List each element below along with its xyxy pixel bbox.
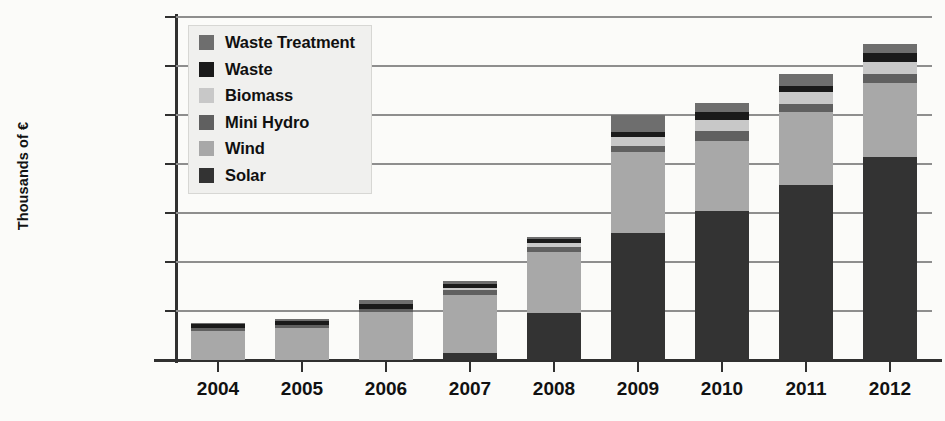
x-tick-label-2008: 2008 [509, 378, 599, 400]
chart-legend: Waste Treatment Waste Biomass Mini Hydro… [188, 25, 372, 194]
bar-2007[interactable] [443, 281, 497, 360]
legend-label-waste-treatment: Waste Treatment [225, 33, 355, 52]
bar-2004[interactable] [191, 323, 245, 360]
bar-segment-waste-treatment[interactable] [695, 103, 749, 112]
gridline [176, 16, 932, 18]
legend-label-biomass: Biomass [225, 86, 293, 105]
bar-segment-mini-hydro[interactable] [779, 104, 833, 112]
bar-2009[interactable] [611, 115, 665, 360]
bar-segment-mini-hydro[interactable] [695, 131, 749, 141]
bar-2010[interactable] [695, 103, 749, 360]
legend-label-mini-hydro: Mini Hydro [225, 113, 309, 132]
legend-swatch-solar [199, 168, 214, 183]
bar-segment-biomass[interactable] [611, 137, 665, 146]
legend-swatch-waste [199, 62, 214, 77]
legend-label-solar: Solar [225, 166, 266, 185]
stacked-bar-chart: Thousands of € 0100000020000003000000400… [0, 0, 945, 421]
bar-segment-waste[interactable] [863, 53, 917, 62]
bar-segment-solar[interactable] [863, 157, 917, 360]
bar-segment-mini-hydro[interactable] [863, 74, 917, 83]
bar-2012[interactable] [863, 44, 917, 360]
legend-item-wind[interactable]: Wind [199, 139, 355, 158]
x-tick-label-2011: 2011 [761, 378, 851, 400]
bar-2011[interactable] [779, 74, 833, 360]
x-tick-mark [637, 361, 640, 372]
bar-segment-wind[interactable] [863, 83, 917, 157]
x-tick-mark [553, 361, 556, 372]
x-tick-mark [385, 361, 388, 372]
bar-segment-waste-treatment[interactable] [611, 115, 665, 132]
bar-segment-waste-treatment[interactable] [779, 74, 833, 86]
bar-segment-wind[interactable] [779, 112, 833, 185]
legend-label-wind: Wind [225, 139, 265, 158]
x-tick-mark [217, 361, 220, 372]
y-axis-title: Thousands of € [15, 91, 31, 261]
x-tick-mark [469, 361, 472, 372]
legend-item-biomass[interactable]: Biomass [199, 86, 355, 105]
bar-segment-solar[interactable] [695, 211, 749, 360]
bar-segment-wind[interactable] [611, 152, 665, 233]
bar-segment-wind[interactable] [275, 328, 329, 360]
x-tick-label-2004: 2004 [173, 378, 263, 400]
x-tick-label-2007: 2007 [425, 378, 515, 400]
bar-segment-solar[interactable] [527, 313, 581, 360]
x-tick-label-2006: 2006 [341, 378, 431, 400]
bar-segment-solar[interactable] [779, 185, 833, 360]
legend-swatch-biomass [199, 88, 214, 103]
bar-2008[interactable] [527, 237, 581, 360]
x-tick-mark [805, 361, 808, 372]
bar-segment-wind[interactable] [443, 295, 497, 352]
bar-segment-wind[interactable] [527, 252, 581, 314]
bar-segment-waste-treatment[interactable] [863, 44, 917, 53]
x-tick-mark [301, 361, 304, 372]
bar-segment-solar[interactable] [611, 233, 665, 360]
bar-segment-wind[interactable] [359, 312, 413, 360]
bar-segment-biomass[interactable] [863, 62, 917, 74]
bar-segment-wind[interactable] [191, 331, 245, 360]
x-tick-label-2012: 2012 [845, 378, 935, 400]
x-tick-label-2009: 2009 [593, 378, 683, 400]
bar-2005[interactable] [275, 319, 329, 360]
bar-segment-biomass[interactable] [779, 92, 833, 104]
bar-2006[interactable] [359, 300, 413, 360]
legend-swatch-mini-hydro [199, 115, 214, 130]
bar-segment-waste[interactable] [695, 112, 749, 121]
legend-label-waste: Waste [225, 60, 273, 79]
x-tick-mark [889, 361, 892, 372]
bar-segment-biomass[interactable] [695, 120, 749, 131]
legend-swatch-waste-treatment [199, 35, 214, 50]
legend-swatch-wind [199, 141, 214, 156]
bar-segment-solar[interactable] [443, 353, 497, 360]
x-tick-mark [721, 361, 724, 372]
legend-item-waste-treatment[interactable]: Waste Treatment [199, 33, 355, 52]
bar-segment-wind[interactable] [695, 141, 749, 211]
legend-item-mini-hydro[interactable]: Mini Hydro [199, 113, 355, 132]
legend-item-solar[interactable]: Solar [199, 166, 355, 185]
x-tick-label-2005: 2005 [257, 378, 347, 400]
x-tick-label-2010: 2010 [677, 378, 767, 400]
legend-item-waste[interactable]: Waste [199, 60, 355, 79]
